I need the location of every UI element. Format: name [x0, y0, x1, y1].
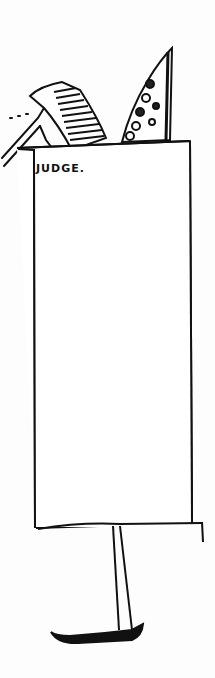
sign-label: JUDGE. — [36, 162, 85, 175]
paper-stack-sketch — [30, 82, 106, 150]
post-base — [51, 624, 143, 643]
sketch-drawing — [0, 0, 215, 678]
feather-sketch — [122, 48, 172, 142]
sign-post — [113, 526, 132, 630]
